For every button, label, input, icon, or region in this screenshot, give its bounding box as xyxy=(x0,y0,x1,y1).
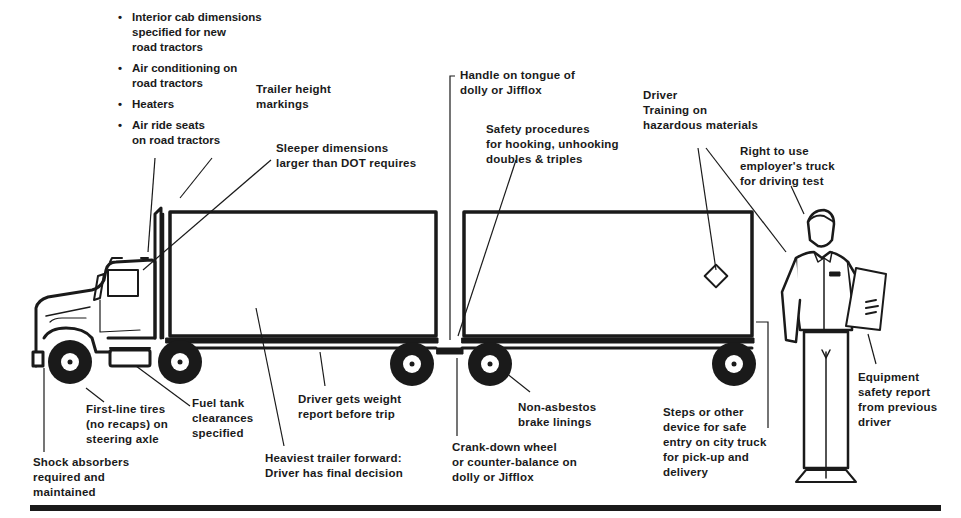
cab-feature-item: •Heaters xyxy=(118,97,262,112)
label-heaviest-trailer: Heaviest trailer forward: Driver has fin… xyxy=(265,451,403,481)
cab-feature-item: •Air ride seats on road tractors xyxy=(118,118,262,148)
label-equipment-report: Equipment safety report from previous dr… xyxy=(858,370,937,430)
label-sleeper-dimensions: Sleeper dimensions larger than DOT requi… xyxy=(276,141,416,171)
label-safety-procedures: Safety procedures for hooking, unhooking… xyxy=(486,122,619,167)
bottom-rule xyxy=(30,505,941,511)
exhaust-stack xyxy=(155,208,163,338)
label-steps-safe-entry: Steps or other device for safe entry on … xyxy=(663,405,767,480)
label-shock-absorbers: Shock absorbers required and maintained xyxy=(33,455,129,500)
wheel-front-steer xyxy=(48,340,92,384)
label-non-asbestos: Non-asbestos brake linings xyxy=(518,400,596,430)
label-weight-report: Driver gets weight report before trip xyxy=(298,392,401,422)
cab-feature-item: •Air conditioning on road tractors xyxy=(118,61,262,91)
bullet-icon: • xyxy=(118,118,122,133)
label-hazmat-training: Driver Training on hazardous materials xyxy=(643,88,758,133)
wheel-dolly xyxy=(468,342,512,386)
bullet-icon: • xyxy=(118,61,122,76)
truck-safety-diagram: •Interior cab dimensions specified for n… xyxy=(0,0,961,518)
tractor-cab xyxy=(33,258,155,366)
cab-features-list: •Interior cab dimensions specified for n… xyxy=(118,10,262,154)
label-crank-down-wheel: Crank-down wheel or counter-balance on d… xyxy=(452,440,577,485)
driver-figure xyxy=(782,210,886,482)
dolly-bar xyxy=(437,348,463,354)
first-trailer xyxy=(166,212,438,348)
label-handle-tongue: Handle on tongue of dolly or Jifflox xyxy=(460,68,575,98)
bullet-icon: • xyxy=(118,10,122,25)
cab-feature-item: •Interior cab dimensions specified for n… xyxy=(118,10,262,55)
wheel-first-trailer xyxy=(390,342,434,386)
label-right-to-use-truck: Right to use employer's truck for drivin… xyxy=(740,144,835,189)
label-fuel-tank: Fuel tank clearances specified xyxy=(192,396,253,441)
bullet-icon: • xyxy=(118,97,122,112)
wheel-tractor-drive xyxy=(158,340,202,384)
label-first-line-tires: First-line tires (no recaps) on steering… xyxy=(86,402,168,447)
label-trailer-height: Trailer height markings xyxy=(256,82,331,112)
wheel-second-trailer xyxy=(712,342,756,386)
